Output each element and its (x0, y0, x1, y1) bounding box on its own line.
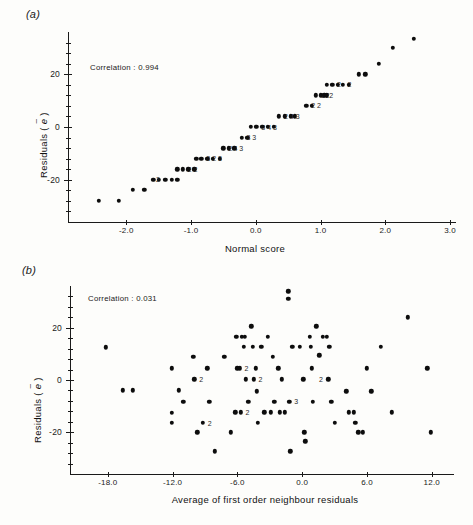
data-point (346, 410, 350, 414)
data-point (369, 389, 373, 393)
data-point-count-label: 2 (329, 91, 333, 98)
data-point (222, 355, 226, 359)
data-point (326, 377, 330, 381)
data-point (131, 188, 135, 192)
panel-b-x-tick-12 (432, 472, 433, 477)
data-point (213, 449, 217, 453)
data-point (429, 430, 433, 434)
panel-b-y-tick--8 (68, 401, 73, 402)
data-point (169, 366, 173, 370)
data-point (357, 72, 361, 76)
panel-a-plot-area: 200-20-2.0-1.00.01.02.03.022232324333343… (0, 0, 473, 262)
data-point (254, 366, 258, 370)
panel-a-y-tick-32 (66, 43, 71, 44)
data-point (246, 399, 250, 403)
panel-a-y-tick--8 (66, 148, 71, 149)
panel-b-y-tick--16 (68, 422, 73, 423)
panel-a-y-tick--12 (66, 159, 71, 160)
data-point (288, 449, 292, 453)
data-point (192, 377, 196, 381)
data-point-count-label: 2 (156, 176, 160, 183)
data-point-count-label: 3 (239, 144, 243, 151)
panel-a-x-tick--2 (126, 220, 127, 225)
data-point (365, 366, 369, 370)
panel-a-y-tick--28 (66, 201, 71, 202)
data-point-count-label: 2 (259, 375, 263, 382)
panel-b-y-tick--28 (68, 453, 73, 454)
data-point (175, 167, 179, 171)
data-point (286, 297, 290, 301)
panel-a-x-tick-label-3: 3.0 (444, 226, 456, 235)
panel-a-y-tick-4 (66, 116, 71, 117)
data-point (233, 410, 237, 414)
panel-a-x-tick-label--2: -2.0 (119, 226, 134, 235)
data-point (116, 199, 120, 203)
data-point (177, 388, 181, 392)
data-point (298, 344, 302, 348)
panel-a-x-tick--1 (191, 220, 192, 225)
data-point (271, 355, 275, 359)
data-point (142, 188, 146, 192)
data-point (325, 83, 329, 87)
data-point (194, 156, 198, 160)
data-point-count-label: 2 (245, 364, 249, 371)
data-point (327, 344, 331, 348)
data-point (314, 324, 318, 328)
panel-a-x-tick-label--1: -1.0 (184, 226, 199, 235)
data-point (251, 377, 255, 381)
data-point (330, 83, 334, 87)
data-point (340, 83, 344, 87)
data-point (169, 410, 173, 414)
panel-a-y-tick-12 (66, 95, 71, 96)
data-point (243, 335, 247, 339)
data-point (151, 178, 155, 182)
panel-b-x-tick-label--12: -12.0 (163, 478, 182, 487)
data-point (175, 178, 179, 182)
panel-a-x-tick-label-1: 1.0 (315, 226, 327, 235)
data-point (304, 104, 308, 108)
data-point (303, 439, 307, 443)
data-point (163, 178, 167, 182)
data-point (283, 410, 287, 414)
panel-b-x-tick-label-12: 12.0 (424, 478, 440, 487)
panel-b-y-tick-label--20: -20 (0, 427, 62, 437)
panel-a-x-tick-label-0: 0.0 (250, 226, 262, 235)
data-point (265, 335, 269, 339)
data-point (344, 389, 348, 393)
data-point (237, 366, 241, 370)
panel-a-x-tick-2 (385, 220, 386, 225)
panel-b-x-tick-0 (302, 472, 303, 477)
panel-a-y-tick-8 (66, 106, 71, 107)
data-point (121, 388, 125, 392)
panel-b-x-tick-label--6: -6.0 (230, 478, 245, 487)
data-point (329, 399, 333, 403)
data-point (169, 178, 173, 182)
data-point (277, 410, 281, 414)
data-point (353, 421, 357, 425)
data-point (191, 355, 195, 359)
data-point (363, 72, 367, 76)
data-point (205, 366, 209, 370)
panel-a-y-tick-label-0: 0 (0, 122, 60, 132)
panel-b-y-tick--32 (68, 464, 73, 465)
panel-a-y-tick--20 (64, 180, 72, 181)
data-point-count-label: 3 (252, 134, 256, 141)
panel-b-x-axis-title: Average of first order neighbour residua… (172, 494, 359, 505)
data-point (207, 399, 211, 403)
panel-b-y-tick--12 (68, 411, 73, 412)
panel-b-x-axis-line (70, 474, 454, 475)
data-point (250, 344, 254, 348)
panel-b-y-tick-8 (68, 359, 73, 360)
data-point (276, 366, 280, 370)
figure-root: (a) Residuals ( e ) Correlation : 0.994 … (0, 0, 473, 525)
data-point (308, 335, 312, 339)
data-point-count-label: 2 (199, 375, 203, 382)
panel-a: (a) Residuals ( e ) Correlation : 0.994 … (0, 0, 473, 262)
data-point (272, 399, 276, 403)
panel-a-x-tick-3 (450, 220, 451, 225)
panel-a-x-axis-title: Normal score (225, 243, 285, 254)
data-point (317, 353, 321, 357)
panel-b: (b) Residuals ( e ) Correlation : 0.031 … (0, 258, 473, 525)
data-point (238, 410, 242, 414)
data-point (103, 345, 107, 349)
